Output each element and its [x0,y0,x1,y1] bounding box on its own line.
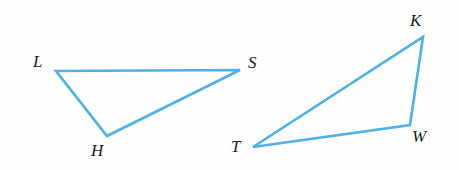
figure-canvas [0,0,459,170]
geometry-figure: L S H T K W [0,0,459,170]
vertex-label-S: S [248,54,257,71]
triangle-twk-shape [253,37,423,147]
vertex-label-W: W [412,128,426,145]
vertex-label-L: L [33,53,42,70]
vertex-label-K: K [410,12,421,29]
triangle-lhs-shape [56,70,240,136]
vertex-label-T: T [231,138,240,155]
vertex-label-H: H [91,142,103,159]
